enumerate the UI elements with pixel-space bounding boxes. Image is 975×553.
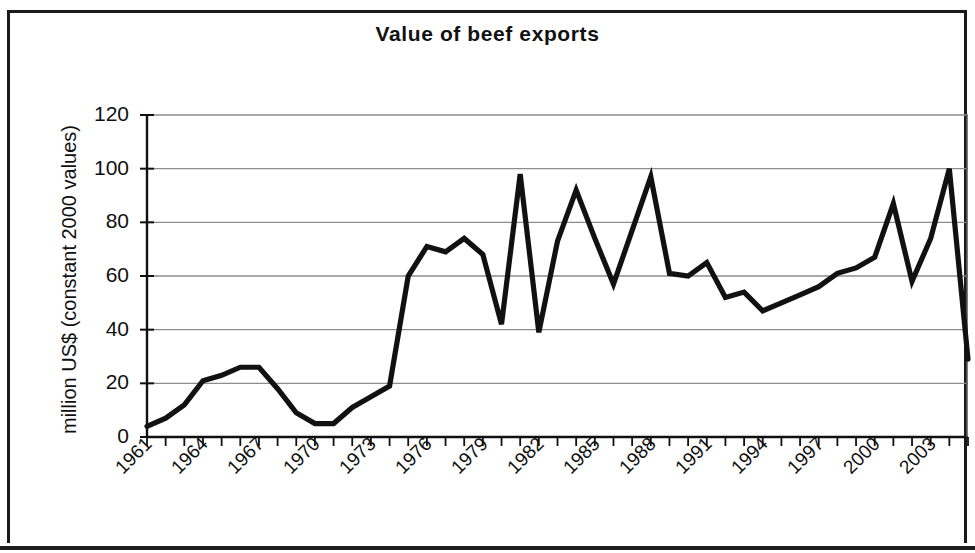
y-tick-label: 60 xyxy=(69,263,129,287)
y-tick-label: 80 xyxy=(69,209,129,233)
data-series-line xyxy=(147,169,968,427)
y-tick-label: 120 xyxy=(69,102,129,126)
chart-svg xyxy=(0,0,975,553)
y-tick-label: 40 xyxy=(69,317,129,341)
y-tick-label: 20 xyxy=(69,370,129,394)
chart-page: Value of beef exports million US$ (const… xyxy=(0,0,975,553)
y-tick-label: 100 xyxy=(69,156,129,180)
y-tick-label: 0 xyxy=(69,424,129,448)
gridlines-group xyxy=(140,115,968,437)
plot-area: 020406080100120 196119641967197019731976… xyxy=(0,0,975,553)
x-tickmarks-group xyxy=(147,437,968,446)
